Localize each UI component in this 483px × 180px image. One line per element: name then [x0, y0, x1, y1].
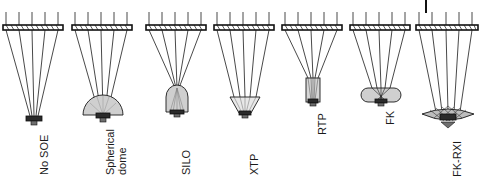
diagram-xtp: [210, 0, 280, 180]
label-no-soe: No SOE: [38, 135, 50, 175]
receiver-xtp: [239, 111, 251, 118]
panel-fk-rxi: FK-RXI: [412, 0, 483, 180]
mirror-array-spherical-dome: [72, 25, 132, 30]
mirror-array-silo: [146, 25, 206, 30]
mirror-array-fk-rxi: [416, 25, 478, 30]
receiver-fk: [375, 99, 387, 106]
panel-rtp: RTP: [278, 0, 348, 180]
panel-no-soe: No SOE: [0, 0, 68, 180]
diagram-no-soe: [0, 0, 68, 180]
soe-xtp: [230, 97, 260, 113]
diagram-fk-rxi: [412, 0, 483, 180]
mirror-array-fk: [350, 25, 410, 30]
rays-xtp: [217, 30, 269, 97]
label-xtp: XTP: [248, 154, 260, 175]
label-fk: FK: [384, 111, 396, 125]
panel-spherical-dome: Sphericaldome: [68, 0, 138, 180]
rays-silo: [149, 30, 201, 88]
soe-concentrator-figure: No SOE: [0, 0, 483, 180]
rays-fk-rxi: [419, 30, 472, 112]
label-spherical-dome: Sphericaldome: [104, 115, 128, 175]
label-line-1: Spherical: [104, 129, 116, 175]
panel-xtp: XTP: [210, 0, 280, 180]
soe-silo: [166, 85, 188, 112]
label-silo: SILO: [180, 150, 192, 175]
diagram-rtp: [278, 0, 348, 180]
mirror-array-rtp: [282, 25, 342, 30]
panel-fk: FK: [346, 0, 416, 180]
rays-no-soe: [6, 30, 58, 116]
label-fk-rxi: FK-RXI: [451, 141, 463, 177]
soe-rtp: [306, 78, 320, 102]
mirror-array-xtp: [214, 25, 274, 30]
receiver-fk-rxi: [440, 114, 456, 128]
panel-silo: SILO: [142, 0, 212, 180]
diagram-fk: [346, 0, 416, 180]
label-rtp: RTP: [316, 113, 328, 135]
soe-spherical-dome: [83, 95, 123, 115]
receiver-no-soe: [26, 116, 42, 125]
rays-fk: [353, 30, 405, 88]
rays-rtp: [285, 30, 337, 78]
mirror-array-no-soe: [3, 25, 63, 30]
diagram-silo: [142, 0, 212, 180]
receiver-silo: [170, 110, 184, 117]
label-line-2: dome: [116, 147, 128, 175]
receiver-rtp: [308, 99, 318, 106]
